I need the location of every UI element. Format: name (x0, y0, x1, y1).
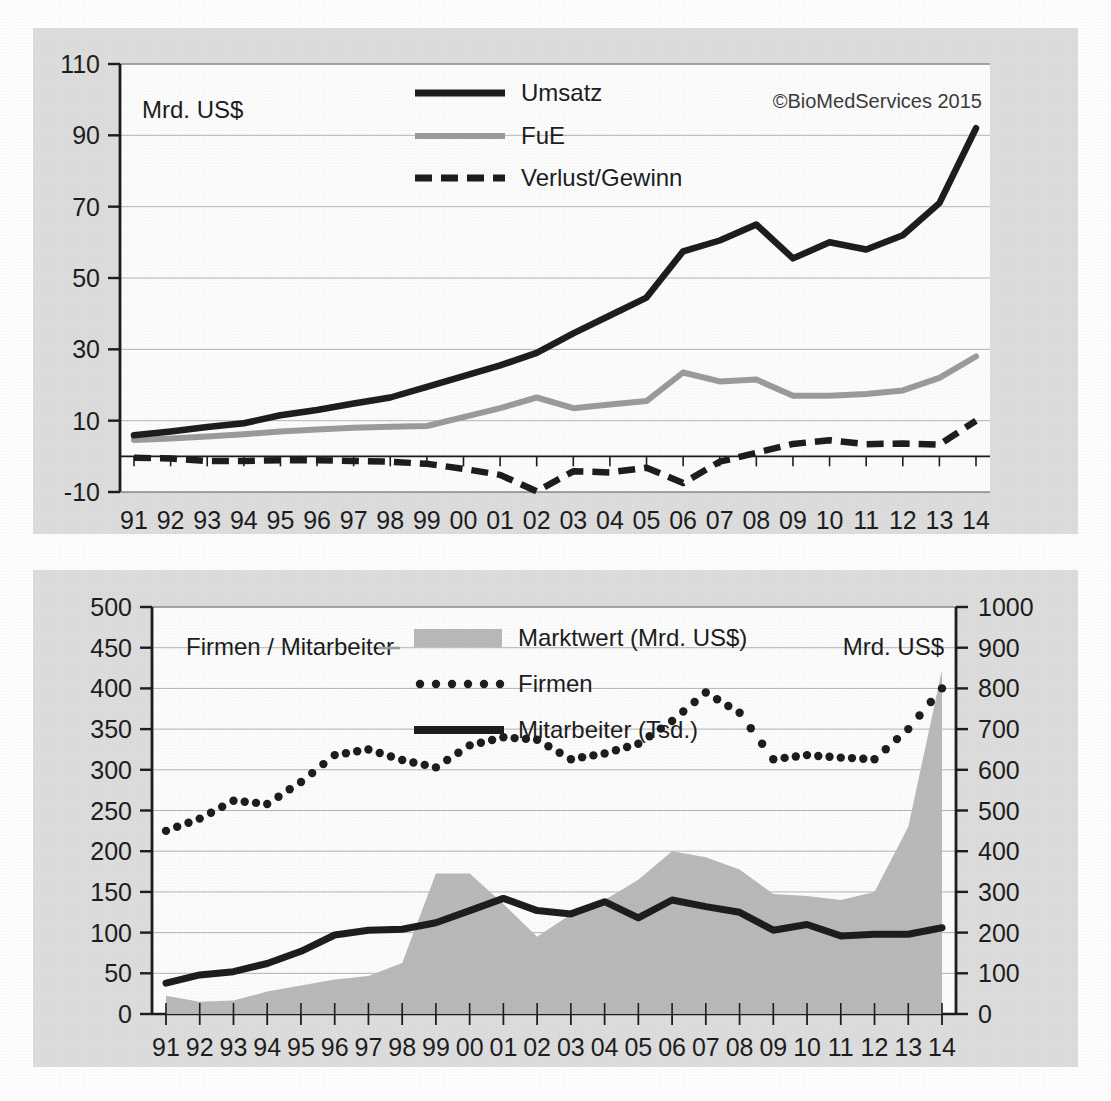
bottom-y-right-tick-label: 900 (978, 634, 1020, 662)
bottom-x-tick-label: 02 (523, 1033, 551, 1061)
bottom-chart: 0501001502002503003504004505000100200300… (0, 0, 1111, 1101)
bottom-series-firmen (162, 684, 946, 835)
bottom-y-right-tick-label: 700 (978, 715, 1020, 743)
bottom-x-tick-label: 96 (321, 1033, 349, 1061)
bottom-x-tick-label: 00 (456, 1033, 484, 1061)
bottom-y-right-tick-label: 400 (978, 837, 1020, 865)
bottom-x-tick-label: 13 (894, 1033, 922, 1061)
legend-swatch-marktwert (414, 629, 502, 647)
bottom-x-tick-label: 98 (388, 1033, 416, 1061)
bottom-y-right-tick-label: 600 (978, 756, 1020, 784)
bottom-x-tick-label: 04 (591, 1033, 619, 1061)
bottom-x-tick-label: 07 (692, 1033, 720, 1061)
bottom-y-left-tick-label: 50 (104, 959, 132, 987)
bottom-x-tick-label: 93 (220, 1033, 248, 1061)
bottom-x-tick-label: 11 (828, 1033, 854, 1061)
bottom-x-tick-label: 14 (928, 1033, 956, 1061)
bottom-y-left-tick-label: 150 (90, 878, 132, 906)
bottom-y-right-tick-label: 800 (978, 674, 1020, 702)
bottom-y-left-tick-label: 450 (90, 634, 132, 662)
bottom-x-tick-label: 91 (152, 1033, 180, 1061)
bottom-y-left-tick-label: 0 (118, 1000, 132, 1028)
bottom-y-left-tick-label: 350 (90, 715, 132, 743)
bottom-y-left-tick-label: 250 (90, 797, 132, 825)
bottom-x-tick-label: 95 (287, 1033, 315, 1061)
bottom-y-right-tick-label: 1000 (978, 593, 1034, 621)
bottom-x-tick-label: 06 (658, 1033, 686, 1061)
bottom-x-tick-label: 94 (253, 1033, 281, 1061)
bottom-x-tick-label: 10 (793, 1033, 821, 1061)
bottom-y-left-tick-label: 200 (90, 837, 132, 865)
bottom-legend: Marktwert (Mrd. US$)FirmenMitarbeiter (T… (414, 624, 747, 743)
bottom-y-left-tick-label: 400 (90, 674, 132, 702)
bottom-y-right-tick-label: 200 (978, 919, 1020, 947)
legend-label-marktwert: Marktwert (Mrd. US$) (518, 624, 747, 651)
legend-swatch-firmen (416, 680, 504, 688)
bottom-y-right-tick-label: 300 (978, 878, 1020, 906)
bottom-x-tick-label: 03 (557, 1033, 585, 1061)
scanned-figure-page: -101030507090110919293949596979899000102… (0, 0, 1111, 1101)
bottom-y-left-tick-label: 500 (90, 593, 132, 621)
bottom-x-tick-label: 08 (726, 1033, 754, 1061)
legend-label-mitarbeiter: Mitarbeiter (Tsd.) (518, 716, 698, 743)
bottom-right-axis-unit-label: Mrd. US$ (843, 633, 944, 660)
bottom-x-tick-label: 09 (759, 1033, 787, 1061)
bottom-y-right-tick-label: 100 (978, 959, 1020, 987)
bottom-x-tick-label: 99 (422, 1033, 450, 1061)
bottom-x-tick-label: 05 (624, 1033, 652, 1061)
bottom-y-left-tick-label: 100 (90, 919, 132, 947)
bottom-left-axis-unit-label: Firmen / Mitarbeiter (186, 633, 394, 660)
bottom-x-tick-label: 12 (861, 1033, 889, 1061)
bottom-y-right-tick-label: 0 (978, 1000, 992, 1028)
bottom-x-tick-label: 97 (355, 1033, 383, 1061)
bottom-x-tick-label: 92 (186, 1033, 214, 1061)
bottom-y-left-tick-label: 300 (90, 756, 132, 784)
bottom-y-right-tick-label: 500 (978, 797, 1020, 825)
legend-label-firmen: Firmen (518, 670, 593, 697)
bottom-x-tick-label: 01 (489, 1033, 517, 1061)
